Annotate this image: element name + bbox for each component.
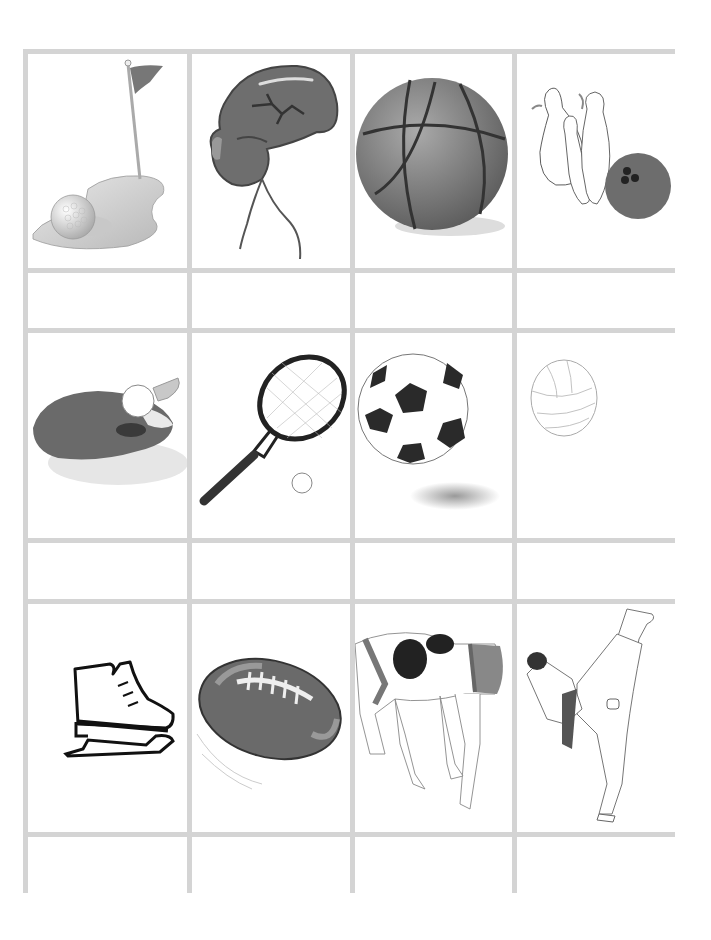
label-cell-wrestling[interactable] <box>355 837 512 893</box>
image-cell-karate <box>517 604 675 832</box>
image-cell-american-football <box>192 604 350 832</box>
boxing-glove-icon <box>192 54 350 268</box>
ice-skate-icon <box>28 604 187 832</box>
label-cell-boxing[interactable] <box>192 273 350 328</box>
label-cell-bowling[interactable] <box>517 273 675 328</box>
label-cell-tennis[interactable] <box>192 543 350 599</box>
label-cell-volleyball[interactable] <box>517 543 675 599</box>
image-cell-soccer <box>355 333 512 538</box>
image-cell-basketball <box>355 54 512 268</box>
ping-pong-paddle-icon <box>28 333 187 538</box>
football-icon <box>192 604 350 832</box>
bowling-icon <box>517 54 675 268</box>
volleyball-icon <box>517 333 675 538</box>
label-cell-ice-skating[interactable] <box>28 837 187 893</box>
tennis-racket-icon <box>192 333 350 538</box>
image-cell-golf <box>28 54 187 268</box>
wrestling-icon <box>355 604 512 832</box>
label-cell-golf[interactable] <box>28 273 187 328</box>
label-cell-karate[interactable] <box>517 837 675 893</box>
basketball-icon <box>355 54 512 268</box>
label-cell-basketball[interactable] <box>355 273 512 328</box>
soccer-ball-icon <box>355 333 512 538</box>
golf-icon <box>28 54 187 268</box>
label-cell-soccer[interactable] <box>355 543 512 599</box>
label-cell-american-football[interactable] <box>192 837 350 893</box>
label-cell-table-tennis[interactable] <box>28 543 187 599</box>
image-cell-tennis <box>192 333 350 538</box>
karate-icon <box>517 604 675 832</box>
image-cell-ice-skating <box>28 604 187 832</box>
image-cell-bowling <box>517 54 675 268</box>
image-cell-boxing <box>192 54 350 268</box>
image-cell-volleyball <box>517 333 675 538</box>
image-cell-table-tennis <box>28 333 187 538</box>
image-cell-wrestling <box>355 604 512 832</box>
sports-matching-worksheet <box>23 49 675 893</box>
